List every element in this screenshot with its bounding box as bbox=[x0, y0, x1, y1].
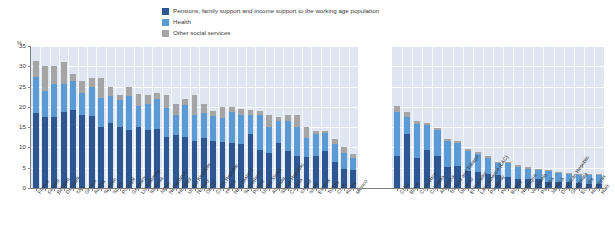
y-tick-label: 25 bbox=[12, 84, 26, 90]
bar-segment-health bbox=[313, 134, 319, 155]
bar[interactable] bbox=[108, 87, 114, 188]
bar-segment-other bbox=[322, 131, 328, 133]
bar-segment-other bbox=[51, 66, 57, 84]
bar[interactable] bbox=[98, 78, 104, 188]
legend-swatch-icon bbox=[162, 30, 169, 37]
bar-segment-other bbox=[465, 149, 471, 151]
legend-swatch-icon bbox=[162, 19, 169, 26]
y-axis-line bbox=[30, 46, 31, 189]
bar[interactable] bbox=[61, 62, 67, 188]
bar[interactable] bbox=[164, 95, 170, 188]
bar-segment-other bbox=[535, 169, 541, 170]
bar-segment-health bbox=[341, 153, 347, 169]
bar-segment-other bbox=[117, 95, 123, 101]
bar-segment-health bbox=[42, 91, 48, 117]
bar-segment-health bbox=[117, 100, 123, 126]
bar-segment-health bbox=[108, 96, 114, 123]
gridline bbox=[31, 66, 358, 67]
bar-segment-other bbox=[341, 147, 347, 153]
vertical-gridline bbox=[543, 46, 544, 188]
bar-segment-other bbox=[42, 66, 48, 90]
y-tick-label: 0 bbox=[12, 185, 26, 191]
vertical-gridline bbox=[432, 46, 433, 188]
bar-segment-health bbox=[182, 105, 188, 137]
bar-segment-health bbox=[515, 167, 521, 179]
vertical-gridline bbox=[493, 46, 494, 188]
vertical-gridline bbox=[412, 46, 413, 188]
gridline bbox=[392, 46, 604, 47]
bar[interactable] bbox=[70, 74, 76, 188]
bar[interactable] bbox=[192, 95, 198, 188]
y-tick-label: 10 bbox=[12, 144, 26, 150]
gridline bbox=[31, 46, 358, 47]
x-axis-line bbox=[30, 188, 604, 189]
y-tick-label: 5 bbox=[12, 165, 26, 171]
bar-segment-other bbox=[210, 111, 216, 116]
legend-pensions[interactable]: Pensions, family support and income supp… bbox=[162, 6, 379, 16]
bar-segment-health bbox=[220, 118, 226, 142]
gridline bbox=[392, 66, 604, 67]
bar-segment-other bbox=[414, 121, 420, 124]
bar-segment-health bbox=[98, 98, 104, 127]
bar-segment-other bbox=[238, 109, 244, 115]
legend-health[interactable]: Health bbox=[162, 17, 379, 27]
bar-segment-other bbox=[285, 115, 291, 121]
bar-segment-other bbox=[313, 131, 319, 134]
bar[interactable] bbox=[33, 61, 39, 188]
bar-segment-other bbox=[79, 81, 85, 92]
bar-segment-health bbox=[424, 125, 430, 150]
bar-segment-pensions bbox=[117, 127, 123, 188]
bar[interactable] bbox=[404, 112, 410, 188]
bar[interactable] bbox=[79, 81, 85, 188]
bar-segment-other bbox=[220, 107, 226, 118]
y-tick-label: 15 bbox=[12, 124, 26, 130]
vertical-gridline bbox=[503, 46, 504, 188]
legend-swatch-icon bbox=[162, 8, 169, 15]
vertical-gridline bbox=[533, 46, 534, 188]
bar[interactable] bbox=[414, 121, 420, 188]
bar[interactable] bbox=[136, 94, 142, 188]
vertical-gridline bbox=[483, 46, 484, 188]
bar-segment-health bbox=[294, 127, 300, 155]
bar-segment-other bbox=[515, 165, 521, 166]
bar[interactable] bbox=[117, 95, 123, 188]
bar-segment-health bbox=[154, 99, 160, 129]
bar-segment-other bbox=[304, 127, 310, 138]
bar[interactable] bbox=[42, 66, 48, 188]
bar-segment-health bbox=[79, 93, 85, 116]
bar[interactable] bbox=[313, 131, 319, 188]
gridline bbox=[392, 87, 604, 88]
vertical-gridline bbox=[473, 46, 474, 188]
legend-other[interactable]: Other social services bbox=[162, 28, 379, 38]
bar-segment-health bbox=[350, 158, 356, 170]
bar-segment-health bbox=[136, 106, 142, 127]
bar[interactable] bbox=[126, 87, 132, 188]
bar-segment-other bbox=[434, 128, 440, 130]
bar-segment-other bbox=[192, 95, 198, 115]
legend-label: Pensions, family support and income supp… bbox=[173, 7, 379, 15]
bar-segment-other bbox=[229, 107, 235, 112]
bar[interactable] bbox=[89, 78, 95, 188]
bar-segment-health bbox=[404, 117, 410, 134]
bar-segment-health bbox=[33, 77, 39, 112]
bar-segment-health bbox=[266, 127, 272, 153]
bar-segment-other bbox=[182, 99, 188, 105]
bar-segment-health bbox=[201, 113, 207, 139]
bar[interactable] bbox=[394, 106, 400, 188]
legend-label: Other social services bbox=[173, 29, 230, 37]
vertical-gridline bbox=[402, 46, 403, 188]
bar-segment-other bbox=[485, 156, 491, 158]
bar-segment-pensions bbox=[394, 156, 400, 188]
bar-segment-other bbox=[294, 115, 300, 127]
bar-segment-health bbox=[444, 141, 450, 166]
bar-segment-health bbox=[145, 104, 151, 130]
bar-segment-other bbox=[276, 117, 282, 121]
vertical-gridline bbox=[584, 46, 585, 188]
bar-segment-other bbox=[266, 115, 272, 127]
bar[interactable] bbox=[51, 66, 57, 188]
vertical-gridline bbox=[453, 46, 454, 188]
vertical-gridline bbox=[574, 46, 575, 188]
bar[interactable] bbox=[210, 111, 216, 188]
vertical-gridline bbox=[523, 46, 524, 188]
bar-segment-other bbox=[89, 78, 95, 87]
